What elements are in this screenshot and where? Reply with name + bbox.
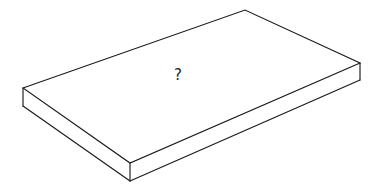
diagram-canvas: ? <box>0 0 378 191</box>
question-mark-annotation: ? <box>174 68 182 83</box>
slab-figure <box>0 0 378 191</box>
